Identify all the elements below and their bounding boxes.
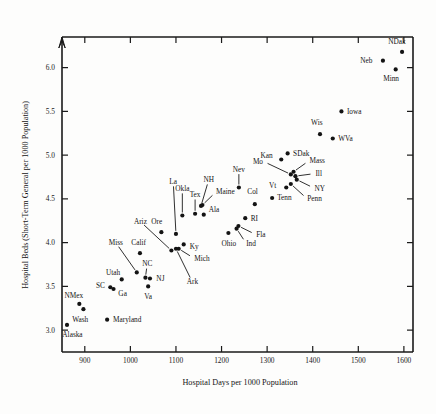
data-point [65,323,69,327]
leader-line [202,184,207,203]
leader-line [296,163,305,170]
data-point [146,284,150,288]
y-tick-label: 4.0 [46,238,56,247]
leader-line [146,269,147,275]
data-point [169,248,173,252]
point-label: SDak [293,149,310,158]
scatter-plot-figure: 90010001100120013001400150016003.03.54.0… [0,0,436,414]
point-label: Okla [175,184,190,193]
point-label: NDak [388,37,406,46]
data-point [243,216,247,220]
leader-line [268,163,289,173]
y-tick-label: 5.0 [46,151,56,160]
data-point [77,302,81,306]
data-point [284,185,288,189]
plot-canvas: 90010001100120013001400150016003.03.54.0… [0,0,436,414]
point-label: Ill [315,169,322,178]
y-tick-label: 3.5 [46,282,56,291]
data-point [120,277,124,281]
data-point [331,136,335,140]
x-tick-label: 1300 [260,356,275,365]
y-tick-label: 6.0 [46,63,56,72]
leader-line [173,186,175,231]
x-axis-title: Hospital Days per 1000 Population [182,378,297,387]
point-label: Tenn [277,193,292,202]
leader-line [293,186,303,196]
data-point [199,204,203,208]
data-point [394,67,398,71]
x-tick-label: 900 [79,356,90,365]
point-label: Maryland [113,315,142,324]
leader-line [241,227,252,232]
data-point [105,318,109,322]
data-point [143,276,147,280]
y-tick-label: 3.0 [46,326,56,335]
data-point [279,157,283,161]
data-point [182,242,186,246]
point-label: La [169,177,177,186]
data-point [81,307,85,311]
point-label: Ohio [222,239,237,248]
point-label: Mass [310,156,326,165]
point-label: Vt [269,181,276,190]
point-label: NJ [156,274,164,283]
point-label: Fla [256,230,266,239]
data-point [108,285,112,289]
x-tick-label: 1200 [214,356,229,365]
leader-line [299,181,310,186]
data-point [295,178,299,182]
data-point [180,213,184,217]
data-point [286,151,290,155]
data-point [174,232,178,236]
data-point [193,212,197,216]
point-label: Mich [194,254,210,263]
point-label: Ariz [134,217,148,226]
point-label: NH [204,175,215,184]
point-label: Ala [209,205,220,214]
data-point [289,182,293,186]
leader-line [238,231,243,239]
leader-line [144,225,169,248]
data-point [381,59,385,63]
data-point [159,230,163,234]
data-point [237,185,241,189]
x-tick-label: 1000 [123,356,138,365]
leader-line [298,174,310,176]
y-axis-title: Hospital Beds (Short-Term General per 10… [21,101,30,289]
point-label: Ind [246,239,256,248]
data-point [400,50,404,54]
data-point [270,196,274,200]
point-label: Maine [216,187,235,196]
leader-line [119,247,135,270]
axes-group [59,37,413,352]
point-label: NC [142,259,152,268]
data-point [226,231,230,235]
point-label: Alaska [62,330,83,339]
point-label: Nev [233,165,246,174]
data-point [148,276,152,280]
data-point [339,109,343,113]
point-label: Ark [187,277,199,286]
point-label: Penn [307,194,322,203]
leader-line [177,251,190,277]
data-point [138,251,142,255]
x-tick-label: 1400 [305,356,320,365]
point-label: NY [315,184,326,193]
x-tick-label: 1500 [351,356,366,365]
y-tick-label: 4.5 [46,194,56,203]
point-label: Utah [106,268,121,277]
point-label: Wash [72,315,88,324]
point-label: Va [144,292,152,301]
point-label: Neb [360,56,373,65]
point-label: WVa [338,134,353,143]
x-tick-label: 1600 [396,356,411,365]
y-tick-label: 5.5 [46,107,56,116]
point-label: Ky [190,242,199,251]
point-label: Minn [383,74,399,83]
data-point [289,172,293,176]
data-point [234,227,238,231]
point-label: Col [247,187,258,196]
point-label: SC [96,281,105,290]
data-point [174,247,178,251]
point-label: Wis [311,118,323,127]
